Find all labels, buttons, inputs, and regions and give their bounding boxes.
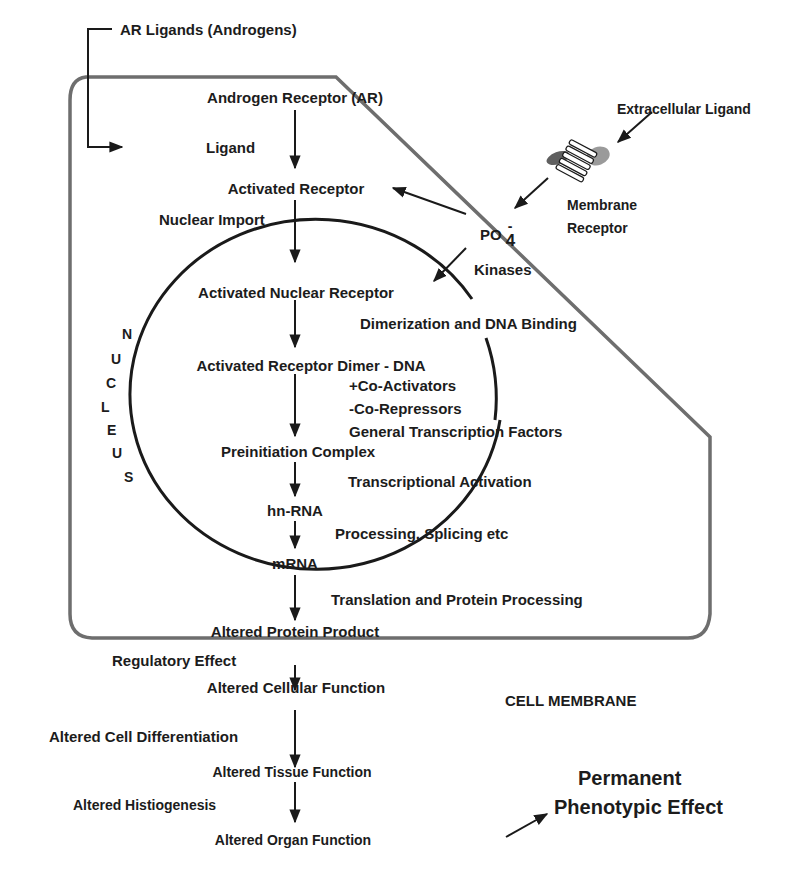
nuclear-import-label: Nuclear Import: [159, 212, 265, 227]
altered-cell-diff-label: Altered Cell Differentiation: [49, 729, 238, 744]
nucleus-letter: N: [122, 327, 132, 341]
phosphate-label: PO 4-: [480, 226, 515, 243]
permanent-effect-label-line1: Permanent: [578, 768, 681, 788]
activated-receptor-label: Activated Receptor: [228, 181, 365, 196]
ligand-label: Ligand: [206, 140, 255, 155]
membrane-receptor-label-line2: Receptor: [567, 221, 628, 235]
ar-ligands-label: AR Ligands (Androgens): [120, 22, 297, 37]
co-activators-label: +Co-Activators: [349, 378, 456, 393]
membrane-receptor-label-line1: Membrane: [567, 198, 637, 212]
receptor-dimer-dna-label: Activated Receptor Dimer - DNA: [196, 358, 425, 373]
nucleus-letter: S: [124, 470, 133, 484]
kinases-label: Kinases: [474, 262, 532, 277]
altered-protein-label: Altered Protein Product: [211, 624, 379, 639]
altered-histiogenesis-label: Altered Histiogenesis: [73, 798, 216, 812]
translation-label: Translation and Protein Processing: [331, 592, 583, 607]
co-repressors-label: -Co-Repressors: [349, 401, 462, 416]
transcriptional-activation-label: Transcriptional Activation: [348, 474, 532, 489]
dimerization-label: Dimerization and DNA Binding: [360, 316, 577, 331]
nucleus-letter: U: [112, 446, 122, 460]
androgen-receptor-label: Androgen Receptor (AR): [207, 90, 383, 105]
altered-cellular-label: Altered Cellular Function: [207, 680, 385, 695]
ligand-bracket: [88, 29, 112, 147]
mrna-label: mRNA: [272, 556, 318, 571]
general-tf-label: General Transcription Factors: [349, 424, 562, 439]
nucleus-letter: C: [106, 376, 116, 390]
altered-tissue-label: Altered Tissue Function: [212, 765, 371, 779]
phosphate-base: PO: [480, 226, 502, 243]
hn-rna-label: hn-RNA: [267, 503, 323, 518]
processing-splicing-label: Processing, Splicing etc: [335, 526, 508, 541]
nucleus-letter: E: [107, 423, 116, 437]
altered-organ-label: Altered Organ Function: [215, 833, 371, 847]
permanent-effect-label-line2: Phenotypic Effect: [554, 797, 723, 817]
cell-membrane-label: CELL MEMBRANE: [505, 693, 636, 708]
regulatory-effect-label: Regulatory Effect: [112, 653, 236, 668]
preinitiation-complex-label: Preinitiation Complex: [221, 444, 375, 459]
extracellular-ligand-label: Extracellular Ligand: [617, 102, 751, 116]
cell-membrane-outline: [55, 78, 80, 820]
nucleus-outline-segment: [486, 338, 496, 420]
activated-nuclear-receptor-label: Activated Nuclear Receptor: [198, 285, 394, 300]
nucleus-letter: L: [101, 400, 110, 414]
phosphate-charge: -: [508, 219, 513, 233]
receptor-transmembrane-coils: [555, 139, 597, 182]
nucleus-letter: U: [111, 352, 121, 366]
